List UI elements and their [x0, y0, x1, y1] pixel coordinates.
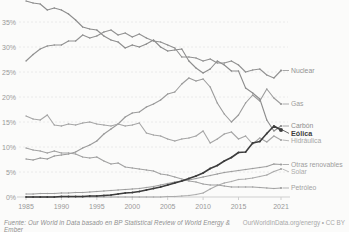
series-point-solar	[103, 196, 104, 197]
series-point-gas	[103, 133, 104, 134]
series-label-petroleo[interactable]: Petróleo	[291, 184, 317, 191]
series-endpoint-petroleo	[280, 187, 282, 189]
series-line-hidraulica[interactable]	[26, 115, 281, 144]
series-point-hidraulica	[139, 122, 140, 123]
series-point-gas	[75, 151, 76, 152]
series-point-carbon	[188, 60, 189, 61]
series-point-otras-renovables	[245, 169, 246, 170]
series-point-eolica	[160, 186, 162, 188]
series-point-hidraulica	[202, 130, 203, 131]
series-point-petroleo	[231, 186, 232, 187]
chart-plot-area[interactable]: 0%5%10%15%20%25%30%35%198519901995200020…	[0, 0, 349, 219]
series-point-eolica	[259, 141, 261, 143]
owid-credit-link[interactable]: OurWorldInData.org/energy • CC BY	[243, 219, 345, 226]
series-point-nuclear	[195, 57, 196, 58]
series-point-carbon	[68, 13, 69, 14]
x-tick-label-2015: 2015	[231, 203, 247, 210]
series-point-solar	[238, 179, 239, 180]
series-point-petroleo	[153, 170, 154, 171]
series-point-gas	[61, 154, 62, 155]
series-point-gas	[231, 121, 232, 122]
series-point-otras-renovables	[89, 191, 90, 192]
series-point-eolica	[75, 196, 77, 198]
series-point-gas	[25, 158, 26, 159]
series-line-carbon[interactable]	[26, 1, 281, 131]
series-point-nuclear	[40, 48, 41, 49]
series-point-carbon	[231, 70, 232, 71]
series-point-solar	[110, 196, 111, 197]
series-point-petroleo	[47, 152, 48, 153]
series-point-carbon	[110, 39, 111, 40]
series-point-nuclear	[89, 37, 90, 38]
series-point-hidraulica	[167, 138, 168, 139]
series-point-hidraulica	[224, 133, 225, 134]
series-point-nuclear	[259, 68, 260, 69]
series-point-nuclear	[132, 36, 133, 37]
series-point-hidraulica	[146, 132, 147, 133]
series-point-carbon	[245, 87, 246, 88]
series-point-eolica	[96, 195, 98, 197]
series-point-carbon	[167, 50, 168, 51]
series-point-nuclear	[273, 77, 274, 78]
series-point-petroleo	[195, 181, 196, 182]
series-point-solar	[273, 171, 274, 172]
label-connector-solar	[283, 169, 290, 172]
series-point-petroleo	[273, 188, 274, 189]
series-point-carbon	[40, 3, 41, 4]
series-point-nuclear	[25, 60, 26, 61]
series-point-otras-renovables	[231, 171, 232, 172]
series-point-petroleo	[110, 163, 111, 164]
y-tick-label-15%: 15%	[2, 119, 16, 126]
series-point-hidraulica	[110, 125, 111, 126]
series-point-carbon	[117, 41, 118, 42]
series-point-gas	[82, 147, 83, 148]
series-point-eolica	[266, 133, 268, 135]
label-connector-hidraulica	[283, 140, 290, 141]
series-point-eolica	[110, 194, 112, 196]
x-tick-label-2010: 2010	[195, 203, 211, 210]
series-point-gas	[146, 106, 147, 107]
series-line-nuclear[interactable]	[26, 30, 281, 78]
series-point-solar	[266, 174, 267, 175]
x-tick-label-2005: 2005	[160, 203, 176, 210]
series-point-carbon	[174, 49, 175, 50]
series-point-carbon	[273, 130, 274, 131]
series-point-nuclear	[103, 31, 104, 32]
series-point-eolica	[39, 196, 41, 198]
series-point-petroleo	[238, 186, 239, 187]
series-point-gas	[217, 102, 218, 103]
series-point-hidraulica	[266, 141, 267, 142]
series-point-eolica	[273, 125, 275, 127]
series-point-petroleo	[167, 174, 168, 175]
series-point-carbon	[259, 98, 260, 99]
series-point-petroleo	[160, 173, 161, 174]
series-point-otras-renovables	[68, 192, 69, 193]
series-label-hidraulica[interactable]: Hidráulica	[291, 137, 321, 144]
series-point-hidraulica	[181, 138, 182, 139]
series-label-otras-renovables[interactable]: Otras renovables	[291, 161, 343, 168]
series-point-petroleo	[32, 149, 33, 150]
series-line-gas[interactable]	[26, 78, 281, 160]
series-label-solar[interactable]: Solar	[291, 168, 308, 175]
series-point-petroleo	[117, 162, 118, 163]
series-point-nuclear	[68, 40, 69, 41]
series-point-hidraulica	[259, 137, 260, 138]
series-point-solar	[252, 177, 253, 178]
series-point-eolica	[131, 192, 133, 194]
series-point-carbon	[266, 119, 267, 120]
series-point-hidraulica	[32, 118, 33, 119]
series-point-solar	[174, 196, 175, 197]
series-point-petroleo	[132, 167, 133, 168]
series-point-nuclear	[146, 37, 147, 38]
series-point-hidraulica	[103, 124, 104, 125]
series-label-gas[interactable]: Gas	[291, 100, 304, 107]
y-tick-label-20%: 20%	[2, 94, 16, 101]
series-point-petroleo	[89, 157, 90, 158]
series-point-hidraulica	[245, 135, 246, 136]
series-point-solar	[195, 194, 196, 195]
series-point-hidraulica	[75, 124, 76, 125]
series-point-otras-renovables	[210, 175, 211, 176]
y-tick-label-0%: 0%	[6, 194, 16, 201]
series-point-carbon	[252, 92, 253, 93]
series-label-nuclear[interactable]: Nuclear	[291, 67, 315, 74]
